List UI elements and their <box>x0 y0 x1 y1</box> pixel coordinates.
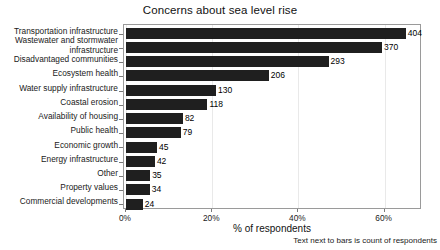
bar[interactable] <box>126 113 183 124</box>
bar[interactable] <box>126 70 269 81</box>
bar-value-label: 404 <box>408 27 422 39</box>
bar[interactable] <box>126 184 150 195</box>
y-axis-label: Water supply infrastructure <box>0 84 118 93</box>
bar-value-label: 293 <box>331 55 345 67</box>
y-axis-label: Other <box>0 169 118 178</box>
bar[interactable] <box>126 99 207 110</box>
y-axis-label: Availability of housing <box>0 112 118 121</box>
bar[interactable] <box>126 85 216 96</box>
y-axis-label: Wastewater and stormwater infrastructure <box>0 36 118 55</box>
bar-row[interactable]: 82 <box>124 112 422 126</box>
plot-area: 40437029320613011882794542353424 <box>123 24 421 209</box>
bar-row[interactable]: 293 <box>124 55 422 69</box>
bar-row[interactable]: 370 <box>124 40 422 54</box>
x-axis-tick-mark <box>125 209 126 212</box>
bar-value-label: 35 <box>152 169 161 181</box>
y-axis-label: Energy infrastructure <box>0 155 118 164</box>
bar-value-label: 24 <box>145 198 154 210</box>
y-axis-label: Public health <box>0 126 118 135</box>
bar-value-label: 118 <box>209 98 223 110</box>
x-axis-tick-mark <box>297 209 298 212</box>
bar[interactable] <box>126 142 157 153</box>
y-axis-label: Ecosystem health <box>0 69 118 78</box>
x-axis-tick-label: 40% <box>289 213 306 223</box>
bar-value-label: 130 <box>218 84 232 96</box>
y-axis-label: Commercial developments <box>0 197 118 206</box>
y-axis-category-labels: Transportation infrastructureWastewater … <box>0 24 118 209</box>
bar-row[interactable]: 34 <box>124 183 422 197</box>
x-axis-tick-label: 60% <box>375 213 392 223</box>
bar[interactable] <box>126 42 382 53</box>
x-axis-tick-mark <box>211 209 212 212</box>
bar-value-label: 34 <box>152 183 161 195</box>
bar-row[interactable]: 79 <box>124 126 422 140</box>
bar-row[interactable]: 42 <box>124 154 422 168</box>
bar-row[interactable]: 206 <box>124 69 422 83</box>
y-axis-label: Coastal erosion <box>0 98 118 107</box>
bar-chart: Concerns about sea level rise Transporta… <box>0 0 440 250</box>
bar[interactable] <box>126 170 150 181</box>
x-axis-tick-label: 20% <box>203 213 220 223</box>
bar-value-label: 42 <box>157 155 166 167</box>
bar-value-label: 206 <box>271 69 285 81</box>
bar-row[interactable]: 118 <box>124 97 422 111</box>
bar-row[interactable]: 130 <box>124 83 422 97</box>
x-axis-title: % of respondents <box>123 223 421 234</box>
x-axis-tick-label: 0% <box>119 213 131 223</box>
bar-value-label: 79 <box>183 126 192 138</box>
bar-row[interactable]: 45 <box>124 140 422 154</box>
bar-row[interactable]: 35 <box>124 169 422 183</box>
bar[interactable] <box>126 156 155 167</box>
y-axis-label: Property values <box>0 183 118 192</box>
bar[interactable] <box>126 199 143 210</box>
bar-value-label: 45 <box>159 141 168 153</box>
bar[interactable] <box>126 127 181 138</box>
y-axis-label: Disadvantaged communities <box>0 55 118 64</box>
bar-value-label: 82 <box>185 112 194 124</box>
chart-title: Concerns about sea level rise <box>0 4 440 16</box>
x-axis-tick-mark <box>384 209 385 212</box>
bar-row[interactable]: 404 <box>124 26 422 40</box>
bar-value-label: 370 <box>384 41 398 53</box>
chart-footnote: Text next to bars is count of respondent… <box>293 236 437 245</box>
bar[interactable] <box>126 28 406 39</box>
bar[interactable] <box>126 56 329 67</box>
y-axis-label: Economic growth <box>0 141 118 150</box>
